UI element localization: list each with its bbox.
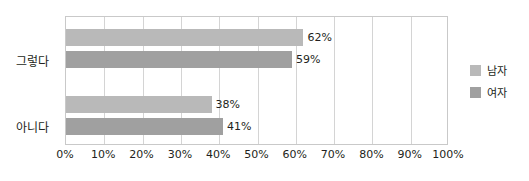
x-axis: 0%10%20%30%40%50%60%70%80%90%100% — [65, 148, 448, 164]
bar[interactable] — [66, 29, 303, 46]
x-tick-label: 90% — [397, 148, 421, 161]
legend-swatch-male-icon — [470, 65, 481, 76]
bar[interactable] — [66, 118, 223, 135]
bar-value-label: 62% — [307, 29, 331, 46]
legend-item[interactable]: 여자 — [470, 82, 526, 102]
legend-item[interactable]: 남자 — [470, 60, 526, 80]
bar[interactable] — [66, 96, 212, 113]
legend-swatch-female-icon — [470, 87, 481, 98]
legend-label: 남자 — [487, 62, 507, 78]
x-tick-label: 0% — [56, 148, 73, 161]
bar-value-label: 38% — [216, 96, 240, 113]
bar[interactable] — [66, 51, 292, 68]
x-tick-label: 20% — [129, 148, 153, 161]
legend-label: 여자 — [487, 84, 507, 100]
x-tick-label: 100% — [432, 148, 463, 161]
plot-area: 62%59%38%41% — [65, 16, 448, 145]
chart-legend: 남자여자 — [470, 60, 526, 104]
x-tick-label: 70% — [321, 148, 345, 161]
x-tick-label: 80% — [359, 148, 383, 161]
x-tick-label: 30% — [168, 148, 192, 161]
gridline-70 — [334, 17, 335, 144]
x-tick-label: 60% — [283, 148, 307, 161]
bar-value-label: 41% — [227, 118, 251, 135]
category-label: 그렇다 — [4, 52, 60, 69]
x-tick-label: 10% — [91, 148, 115, 161]
gridline-90 — [411, 17, 412, 144]
bar-value-label: 59% — [296, 51, 320, 68]
gridline-80 — [372, 17, 373, 144]
x-tick-label: 50% — [244, 148, 268, 161]
category-label: 아니다 — [4, 118, 60, 135]
chart-title — [150, 0, 390, 4]
x-tick-label: 40% — [206, 148, 230, 161]
